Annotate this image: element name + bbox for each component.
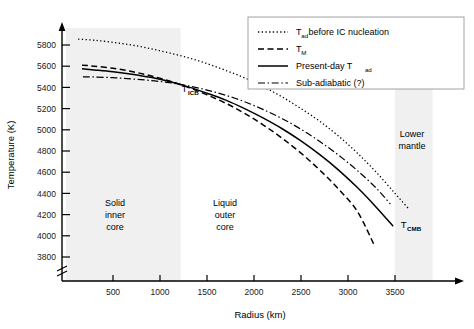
y-tick-label: 4000 xyxy=(37,231,56,241)
y-tick-label: 5800 xyxy=(37,40,56,50)
y-tick-label: 3800 xyxy=(37,252,56,262)
legend[interactable]: Tad before IC nucleationTMPresent-day Ta… xyxy=(248,17,464,89)
solid-inner-core-label-line: inner xyxy=(105,210,125,220)
solid-inner-core-label-line: Solid xyxy=(105,198,125,208)
temperature-radius-chart: 3800400042004400460048005000520054005600… xyxy=(0,0,474,329)
x-tick-label: 3000 xyxy=(339,287,358,297)
legend-label-subscript: M xyxy=(301,49,306,56)
legend-label-rest: before IC nucleation xyxy=(309,27,390,37)
x-axis-title: Radius (km) xyxy=(234,309,285,320)
y-tick-label: 5600 xyxy=(37,61,56,71)
x-tick-label: 1000 xyxy=(151,287,170,297)
solid-inner-core-label: Solidinnercore xyxy=(105,198,125,232)
liquid-outer-core-label-line: Liquid xyxy=(213,198,237,208)
liquid-outer-core-label: Liquidoutercore xyxy=(213,198,237,232)
legend-label: Present-day T xyxy=(296,61,353,71)
t-cmb-main: T xyxy=(401,219,407,230)
solid-inner-core-label-line: core xyxy=(106,222,124,232)
y-tick-label: 5000 xyxy=(37,125,56,135)
t-icb-main: T xyxy=(182,83,188,94)
lower-mantle-label-line: Lower xyxy=(400,129,425,139)
x-tick-label: 500 xyxy=(106,287,120,297)
liquid-outer-core-label-line: core xyxy=(216,222,234,232)
t-cmb-subscript: CMB xyxy=(407,225,422,232)
y-tick-label: 4200 xyxy=(37,210,56,220)
y-tick-label: 4400 xyxy=(37,189,56,199)
x-tick-label: 2500 xyxy=(292,287,311,297)
lower-mantle-label-line: mantle xyxy=(398,141,425,151)
y-tick-label: 5200 xyxy=(37,104,56,114)
x-tick-label: 3500 xyxy=(386,287,405,297)
y-axis-title: Temperature (K) xyxy=(5,121,16,190)
y-tick-label: 4800 xyxy=(37,146,56,156)
y-tick-label: 5400 xyxy=(37,83,56,93)
liquid-outer-core-label-line: outer xyxy=(215,210,236,220)
t-icb-subscript: ICB xyxy=(188,89,199,96)
chart-figure: 3800400042004400460048005000520054005600… xyxy=(0,0,474,329)
x-tick-label: 1500 xyxy=(198,287,217,297)
legend-label-subscript: ad xyxy=(365,66,372,73)
x-tick-label: 2000 xyxy=(245,287,264,297)
y-tick-label: 4600 xyxy=(37,167,56,177)
legend-label: Sub-adiabatic (?) xyxy=(296,78,365,88)
